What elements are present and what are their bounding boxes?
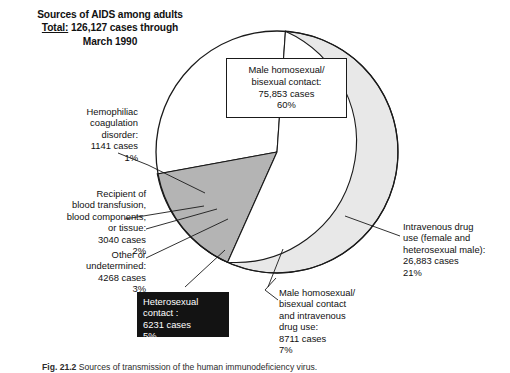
leader-line-combined bbox=[265, 278, 278, 300]
figure-canvas: Sources of AIDS among adults Total: 126,… bbox=[0, 0, 510, 373]
figure-caption: Fig. 21.2 Sources of transmission of the… bbox=[42, 363, 482, 373]
label-other-or-undetermined[interactable]: Other or undetermined: 4268 cases 3% bbox=[32, 249, 146, 295]
label-blood-transfusion-recipient[interactable]: Recipient of blood transfusion, blood co… bbox=[8, 188, 146, 257]
label-hemophiliac-coagulation-disorder[interactable]: Hemophiliac coagulation disorder: 1141 c… bbox=[22, 106, 138, 163]
leader-line-heterosexual bbox=[185, 250, 225, 287]
figure-caption-number: Fig. 21.2 bbox=[42, 363, 76, 372]
label-male-homosexual-and-iv-drug-use[interactable]: Male homosexual/ bisexual contact and in… bbox=[279, 287, 391, 356]
label-intravenous-drug-use[interactable]: Intravenous drug use (female and heteros… bbox=[403, 221, 507, 278]
pie-chart bbox=[0, 0, 510, 373]
label-heterosexual-contact[interactable]: Heterosexual contact : 6231 cases 5% bbox=[137, 292, 229, 337]
label-male-homosexual-bisexual-contact[interactable]: Male homosexual/ bisexual contact: 75,85… bbox=[226, 58, 347, 118]
figure-caption-text: Sources of transmission of the human imm… bbox=[79, 363, 317, 372]
